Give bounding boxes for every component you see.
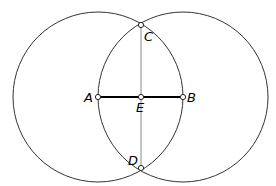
label-C: C (144, 29, 154, 44)
construction-svg: ABCDE (0, 0, 276, 186)
point-C (138, 22, 143, 27)
label-A: A (83, 90, 93, 105)
diagram-canvas: ABCDE (0, 0, 276, 186)
point-E (138, 94, 143, 99)
label-D: D (128, 153, 138, 168)
label-B: B (187, 90, 196, 105)
point-D (138, 165, 143, 170)
point-A (95, 94, 100, 99)
label-E: E (136, 100, 145, 115)
point-B (180, 94, 185, 99)
